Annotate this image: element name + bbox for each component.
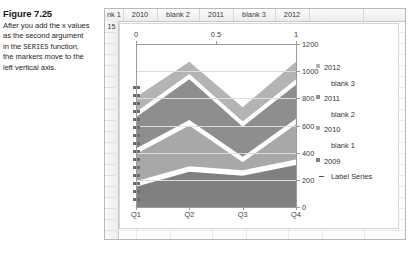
label-series-marker[interactable] (133, 94, 136, 97)
column-header-5[interactable]: 2012 (275, 9, 310, 21)
label-series-marker[interactable] (137, 126, 140, 129)
legend-label: blank 1 (331, 138, 355, 154)
spreadsheet-cell[interactable] (364, 230, 406, 240)
spreadsheet-cell[interactable] (136, 230, 171, 240)
y-axis-tick (296, 44, 300, 45)
label-series-marker[interactable] (137, 86, 140, 89)
caption-line-5: left vertical axis. (3, 63, 56, 72)
y-axis-tick-label: 400 (302, 148, 314, 157)
label-series-marker[interactable] (133, 166, 136, 169)
label-series-marker[interactable] (137, 190, 140, 193)
label-series-marker[interactable] (137, 102, 140, 105)
legend-label: blank 3 (331, 76, 355, 92)
column-header-empty[interactable] (363, 9, 406, 21)
row-header-19[interactable] (105, 230, 118, 240)
column-header-0[interactable]: nk 1 (105, 9, 124, 21)
label-series-marker[interactable] (133, 150, 136, 153)
axis-top (136, 44, 297, 45)
column-header-empty[interactable] (309, 9, 364, 21)
column-header-3[interactable]: 2011 (199, 9, 234, 21)
figure-caption-text: After you add the x values as the second… (3, 21, 99, 73)
legend-swatch-icon (316, 95, 320, 99)
y-axis-tick (296, 180, 300, 181)
label-series-marker[interactable] (137, 150, 140, 153)
embedded-chart[interactable]: 020040060080010001200 Q1Q2Q3Q4 00.51 201… (119, 23, 399, 229)
legend-item-2011[interactable]: 2011 (316, 91, 392, 107)
y-axis-tick (296, 71, 300, 72)
top-axis-tick-label: 1 (294, 30, 298, 39)
figure-number: Figure 7.25 (3, 8, 99, 20)
label-series-marker[interactable] (133, 134, 136, 137)
label-series-marker[interactable] (133, 102, 136, 105)
y-axis-tick (296, 126, 300, 127)
gridline (137, 180, 296, 181)
axis-bottom-category[interactable] (136, 207, 297, 208)
label-series-marker[interactable] (137, 134, 140, 137)
label-series-marker[interactable] (133, 126, 136, 129)
figure-root: Figure 7.25 After you add the x values a… (0, 0, 410, 254)
label-series-marker[interactable] (137, 94, 140, 97)
label-series-marker[interactable] (137, 142, 140, 145)
top-axis-tick-label: 0 (134, 30, 138, 39)
top-axis-tick (136, 41, 137, 44)
label-series-marker[interactable] (133, 110, 136, 113)
y-axis-tick (296, 153, 300, 154)
label-series-marker[interactable] (133, 174, 136, 177)
label-series-marker[interactable] (137, 166, 140, 169)
caption-series-keyword: SERIES (23, 43, 48, 51)
label-series-marker[interactable] (133, 86, 136, 89)
legend-item-2012[interactable]: 2012 (316, 60, 392, 76)
legend-item-blank-2[interactable]: blank 2 (316, 107, 392, 123)
spreadsheet-window[interactable]: nk 12010blank 22011blank 32012 15 020040… (104, 8, 406, 240)
legend-line-icon (319, 176, 324, 177)
label-series-marker[interactable] (133, 118, 136, 121)
legend-label: 2010 (324, 122, 340, 138)
chart-legend[interactable]: 2012blank 32011blank 22010blank 12009Lab… (316, 60, 392, 185)
y-axis-tick-label: 600 (302, 121, 314, 130)
legend-item-blank-1[interactable]: blank 1 (316, 138, 392, 154)
spreadsheet-cell[interactable] (170, 230, 213, 240)
label-series-marker[interactable] (137, 198, 140, 201)
gridline (137, 153, 296, 154)
y-axis-tick-label: 200 (302, 175, 314, 184)
top-axis-tick-label: 0.5 (211, 30, 221, 39)
label-series-marker[interactable] (133, 198, 136, 201)
label-series-marker[interactable] (137, 118, 140, 121)
column-header-2[interactable]: blank 2 (157, 9, 200, 21)
x-axis-label-q4: Q4 (291, 210, 301, 219)
x-axis-label-q3: Q3 (238, 210, 248, 219)
spreadsheet-cell[interactable] (288, 230, 323, 240)
label-series-marker[interactable] (133, 142, 136, 145)
spreadsheet-cell[interactable] (246, 230, 289, 240)
spreadsheet-cell[interactable] (118, 230, 137, 240)
label-series-marker[interactable] (137, 158, 140, 161)
legend-item-2010[interactable]: 2010 (316, 122, 392, 138)
legend-label: blank 2 (331, 107, 355, 123)
column-header-1[interactable]: 2010 (123, 9, 158, 21)
spreadsheet-cell[interactable] (212, 230, 247, 240)
caption-line-4: the markers move to the (3, 52, 84, 61)
figure-caption: Figure 7.25 After you add the x values a… (3, 8, 99, 73)
label-series-marker[interactable] (137, 182, 140, 185)
spreadsheet-row-headers[interactable]: 15 (105, 21, 119, 239)
label-series-marker[interactable] (133, 182, 136, 185)
spreadsheet-cell[interactable] (322, 230, 365, 240)
label-series-marker[interactable] (133, 190, 136, 193)
caption-line-1: After you add the x values (3, 21, 90, 30)
y-axis-tick-label: 800 (302, 94, 314, 103)
legend-swatch-icon (316, 126, 320, 130)
y-axis-tick-label: 0 (302, 203, 306, 212)
y-axis-tick (296, 98, 300, 99)
label-series-marker[interactable] (137, 110, 140, 113)
x-axis-label-q1: Q1 (131, 210, 141, 219)
label-series-marker[interactable] (137, 174, 140, 177)
legend-swatch-icon (316, 158, 320, 162)
label-series-marker[interactable] (133, 158, 136, 161)
caption-line-2: as the second argument (3, 31, 83, 40)
caption-line-3-suffix: function, (49, 42, 79, 51)
legend-item-2009[interactable]: 2009 (316, 154, 392, 170)
legend-item-blank-3[interactable]: blank 3 (316, 76, 392, 92)
column-header-4[interactable]: blank 3 (233, 9, 276, 21)
x-axis-label-q2: Q2 (184, 210, 194, 219)
legend-item-label-series[interactable]: Label Series (316, 169, 392, 185)
